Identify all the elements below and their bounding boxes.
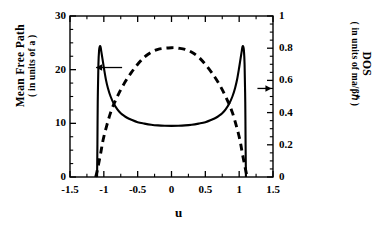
right-arrow-head xyxy=(265,85,271,91)
y-right-tick-label: 0.4 xyxy=(279,106,319,118)
y-left-tick-label: 30 xyxy=(24,9,66,21)
series-mean-free-path xyxy=(97,46,246,177)
y-left-tick-label: 20 xyxy=(24,63,66,75)
x-tick-label: 1.5 xyxy=(249,183,297,195)
y-right-tick-label: 0 xyxy=(279,170,319,182)
y-axis-right-title-line1: DOS xyxy=(360,0,373,134)
y-left-tick-label: 10 xyxy=(24,116,66,128)
y-right-tick-label: 0.2 xyxy=(279,138,319,150)
y-right-tick-label: 0.8 xyxy=(279,41,319,53)
y-right-tick-label: 0.6 xyxy=(279,73,319,85)
y-right-tick-label: 1 xyxy=(279,9,319,21)
y-left-tick-label: 0 xyxy=(24,170,66,182)
